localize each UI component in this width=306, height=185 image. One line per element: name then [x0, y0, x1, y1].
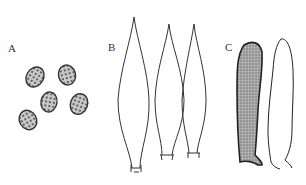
illustration: [0, 0, 306, 185]
spore: [67, 91, 90, 117]
cystidium: [118, 17, 149, 168]
spore: [22, 64, 47, 91]
septum: [131, 165, 141, 172]
panel-a-spores: [16, 63, 91, 133]
panel-b-cystidia: [118, 17, 206, 172]
spore: [39, 91, 58, 113]
spore: [16, 107, 41, 133]
cystidium: [182, 24, 206, 153]
panel-c-cystidia: [237, 39, 293, 169]
septum: [160, 155, 174, 160]
cystidium-stippled: [237, 42, 262, 165]
spore: [56, 63, 78, 87]
cystidium-outline: [268, 39, 293, 169]
cystidium: [155, 24, 184, 155]
septum: [187, 153, 200, 158]
